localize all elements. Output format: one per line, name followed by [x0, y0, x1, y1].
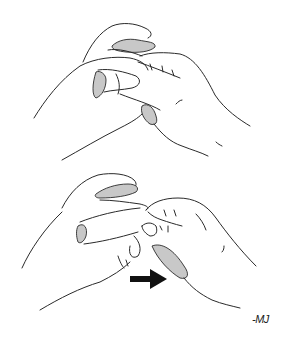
- hands-pinching-drawing: [0, 0, 292, 170]
- bottom-illustration-panel: [0, 170, 292, 341]
- artist-signature: -MJ: [252, 313, 269, 325]
- hands-pulling-drawing: [0, 170, 292, 341]
- arrow-right-icon: [130, 269, 167, 289]
- top-illustration-panel: [0, 0, 292, 170]
